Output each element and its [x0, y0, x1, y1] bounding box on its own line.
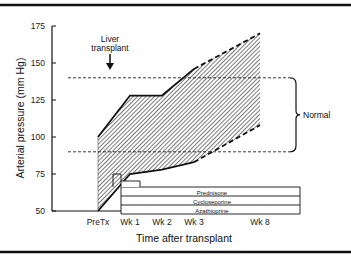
drug-label-prednisone: Prednisone: [197, 190, 228, 196]
x-tick-label: Wk 8: [250, 217, 270, 227]
transplant-arrow-head: [106, 63, 114, 70]
normal-label: Normal: [303, 110, 331, 120]
y-tick-label: 100: [31, 132, 45, 142]
x-tick-label: Wk 1: [120, 217, 140, 227]
chart: 5075100125150175PreTxWk 1Wk 2Wk 3Wk 8 Ar…: [0, 0, 351, 259]
y-tick-label: 125: [31, 95, 45, 105]
x-tick-label: Wk 3: [184, 217, 204, 227]
y-tick-label: 150: [31, 58, 45, 68]
y-tick-label: 50: [36, 206, 46, 216]
drug-label-cyclosporine: Cycloseporine: [193, 199, 232, 205]
drug-label-azathioprine: Azathioprine: [195, 208, 229, 214]
y-tick-label: 75: [36, 169, 46, 179]
y-axis-title: Arterial pressure (mm Hg): [14, 58, 26, 179]
normal-brace: [290, 78, 300, 152]
y-tick-label: 175: [31, 21, 45, 31]
x-tick-label: Wk 2: [152, 217, 172, 227]
prednisone-taper-step: [121, 181, 140, 187]
x-axis-title: Time after transplant: [136, 232, 232, 244]
x-tick-label: PreTx: [87, 217, 110, 227]
annotation-liver-transplant-line2: transplant: [91, 43, 129, 53]
